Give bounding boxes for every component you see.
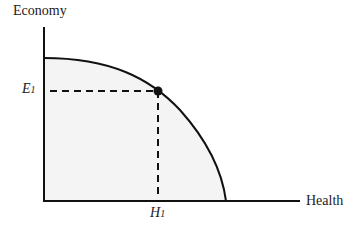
allocation-point	[154, 87, 163, 96]
y-axis-label: Economy	[13, 3, 67, 19]
feasible-region	[44, 58, 226, 201]
h1-subscript: 1	[160, 208, 165, 219]
e1-letter: E	[22, 81, 31, 96]
h1-label: H1	[150, 205, 165, 221]
h1-letter: H	[150, 205, 160, 220]
e1-subscript: 1	[31, 84, 36, 95]
e1-label: E1	[22, 81, 36, 97]
x-axis-label: Health	[306, 193, 343, 209]
